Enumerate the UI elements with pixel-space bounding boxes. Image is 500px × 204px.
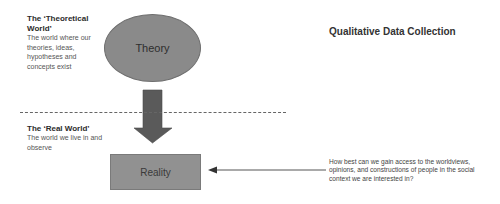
down-arrow-icon bbox=[132, 88, 176, 146]
left-arrow-icon bbox=[206, 165, 326, 175]
theory-node: Theory bbox=[104, 14, 201, 82]
theoretical-world-heading: The ‘Theoretical World’ bbox=[27, 14, 105, 33]
diagram-title: Qualitative Data Collection bbox=[329, 26, 456, 37]
real-world-description: The world we live in and observe bbox=[27, 133, 103, 152]
divider-behind-arrow bbox=[132, 108, 176, 116]
reality-node: Reality bbox=[110, 154, 201, 190]
theory-label: Theory bbox=[135, 42, 169, 54]
research-question: How best can we gain access to the world… bbox=[329, 158, 489, 183]
theoretical-world-description: The world where our theories, ideas, hyp… bbox=[27, 33, 105, 71]
reality-label: Reality bbox=[140, 167, 171, 178]
